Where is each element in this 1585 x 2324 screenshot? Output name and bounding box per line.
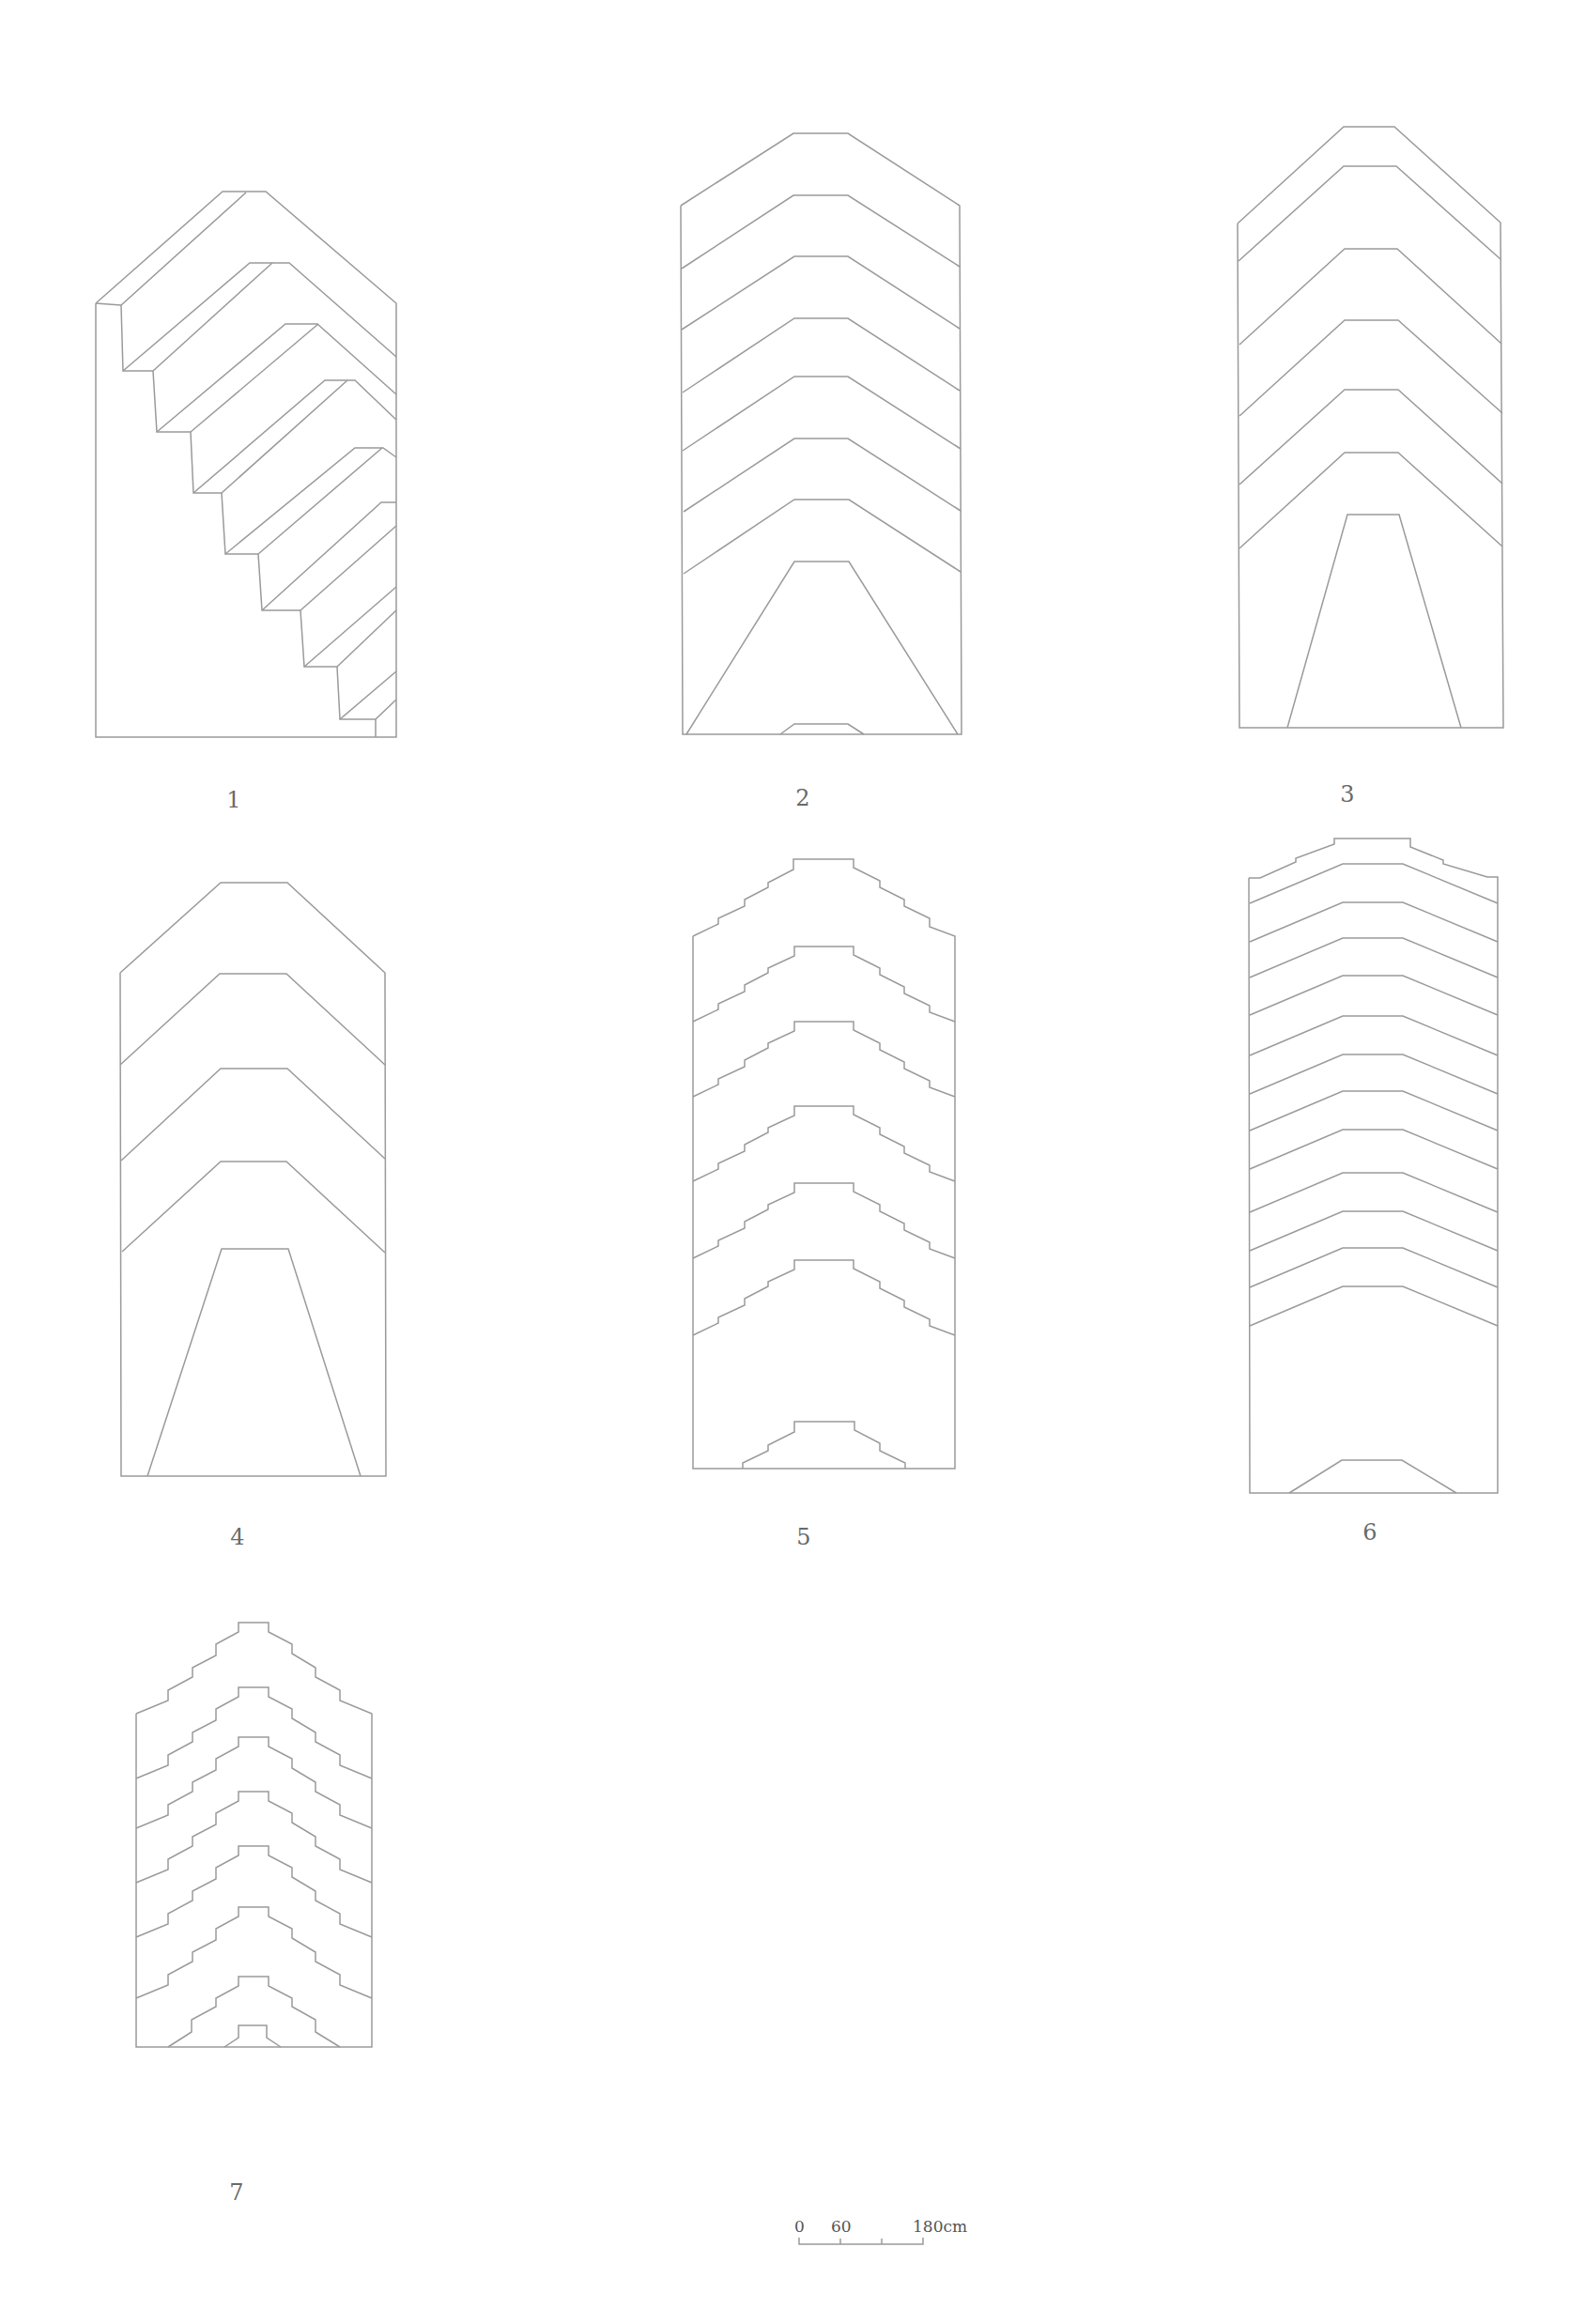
figure-label-5: 5 bbox=[796, 1524, 810, 1550]
figure-label-7: 7 bbox=[229, 2179, 243, 2206]
scale-tick-180cm: 180cm bbox=[913, 2217, 967, 2236]
figure-label-6: 6 bbox=[1362, 1519, 1377, 1546]
figure-label-3: 3 bbox=[1340, 781, 1354, 808]
scale-tick-60: 60 bbox=[831, 2217, 852, 2236]
scale-tick-0: 0 bbox=[794, 2217, 805, 2236]
label-layer: 2 3 4 5 6 7 0 60 180cm bbox=[0, 0, 1585, 2324]
figure-label-2: 2 bbox=[795, 785, 809, 811]
figure-label-4: 4 bbox=[230, 1524, 244, 1550]
